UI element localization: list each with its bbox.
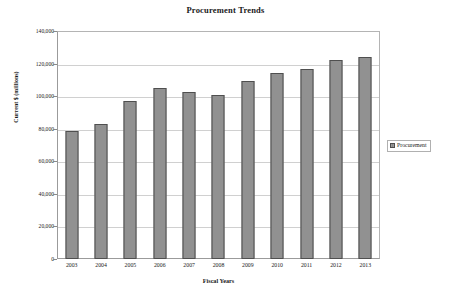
x-axis-tick-label-2003: 2003 [66, 262, 78, 268]
bar-2013[interactable] [359, 57, 372, 259]
y-axis-tick-mark [53, 259, 57, 260]
bar-slot [233, 31, 262, 259]
bar-2004[interactable] [95, 124, 108, 259]
x-axis-title: Fiscal Years [57, 277, 380, 284]
x-axis-tick-label-2006: 2006 [154, 262, 166, 268]
bar-series-procurement [57, 31, 380, 259]
chart-legend: Procurement [387, 140, 431, 152]
x-axis-tick-label-2010: 2010 [271, 262, 283, 268]
chart-title: Procurement Trends [0, 5, 451, 15]
bar-slot [145, 31, 174, 259]
y-axis-tick-marks [0, 31, 57, 259]
x-axis-tick-label-2008: 2008 [213, 262, 225, 268]
bar-slot [204, 31, 233, 259]
bar-2008[interactable] [212, 95, 225, 259]
legend-label: Procurement [397, 143, 427, 149]
bar-slot [292, 31, 321, 259]
bar-slot [321, 31, 350, 259]
bar-2006[interactable] [153, 88, 166, 259]
x-axis-tick-label-2011: 2011 [301, 262, 312, 268]
bar-slot [86, 31, 115, 259]
legend-swatch-icon [390, 143, 395, 148]
bar-slot [116, 31, 145, 259]
x-axis-tick-label-2012: 2012 [330, 262, 342, 268]
procurement-trends-chart: Procurement Trends Current $ (millions) … [0, 0, 451, 296]
bar-2005[interactable] [124, 101, 137, 259]
x-axis-tick-labels: 2003200420052006200720082009201020112012… [57, 262, 380, 274]
bar-2011[interactable] [300, 69, 313, 259]
x-axis-tick-label-2013: 2013 [360, 262, 372, 268]
x-axis-tick-label-2007: 2007 [183, 262, 195, 268]
bar-slot [351, 31, 380, 259]
x-axis-tick-label-2004: 2004 [95, 262, 107, 268]
bar-2010[interactable] [271, 73, 284, 259]
bar-slot [174, 31, 203, 259]
bar-2012[interactable] [329, 60, 342, 260]
bar-2003[interactable] [65, 131, 78, 259]
x-axis-tick-label-2005: 2005 [125, 262, 137, 268]
bar-slot [263, 31, 292, 259]
bar-2009[interactable] [241, 81, 254, 259]
bar-slot [57, 31, 86, 259]
bar-2007[interactable] [183, 92, 196, 259]
x-axis-tick-label-2009: 2009 [242, 262, 254, 268]
